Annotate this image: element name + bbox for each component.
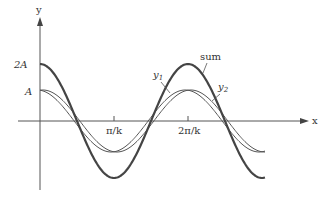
y-axis-label: y [35,4,42,15]
leader-sum [203,63,207,73]
y-tick-2A: 2A [13,59,28,70]
label-y1: y1 [152,69,163,82]
x-tick-label-2pi-k: 2π/k [178,125,201,136]
label-sum: sum [200,51,222,62]
x-axis-arrow-icon [300,118,309,124]
y-tick-A: A [24,86,32,97]
wave-superposition-diagram: y x 2A A π/k 2π/k sum y1 y2 [0,0,330,203]
x-axis-label: x [312,115,318,126]
label-y2: y2 [217,81,229,94]
x-tick-label-pi-k: π/k [106,125,123,136]
y-axis-arrow-icon [37,17,43,26]
